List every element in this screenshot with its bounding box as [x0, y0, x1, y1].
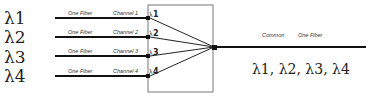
- port-label-4: 4: [153, 67, 159, 76]
- input-fiber-2: [55, 35, 214, 47]
- wavelength-label-1: λ1: [4, 8, 26, 28]
- port-label-3: 3: [153, 48, 159, 57]
- output-fiber-label: One Fiber: [298, 32, 324, 38]
- fiber-label-1: One Fiber: [68, 10, 94, 16]
- fiber-label-4: One Fiber: [68, 68, 94, 74]
- fiber-label-2: One Fiber: [68, 29, 94, 35]
- channel-label-1: Channel 1: [113, 10, 138, 16]
- combined-wavelengths-label: λ1, λ2, λ3, λ4: [252, 61, 350, 77]
- fiber-label-3: One Fiber: [68, 48, 94, 54]
- channel-label-2: Channel 2: [113, 29, 138, 35]
- channel-label-3: Channel 3: [113, 48, 139, 54]
- channel-label-4: Channel 4: [113, 68, 138, 74]
- port-label-2: 2: [153, 29, 159, 38]
- port-label-1: 1: [153, 10, 159, 19]
- wavelength-label-2: λ2: [4, 27, 26, 47]
- common-label: Common: [262, 32, 284, 38]
- wavelength-label-4: λ4: [4, 66, 26, 86]
- common-output-fiber: [212, 45, 366, 50]
- multiplexer-diagram: λ1 λ2 λ3 λ4 One Fiber One Fiber One Fibe…: [0, 0, 389, 96]
- wavelength-label-3: λ3: [4, 47, 26, 67]
